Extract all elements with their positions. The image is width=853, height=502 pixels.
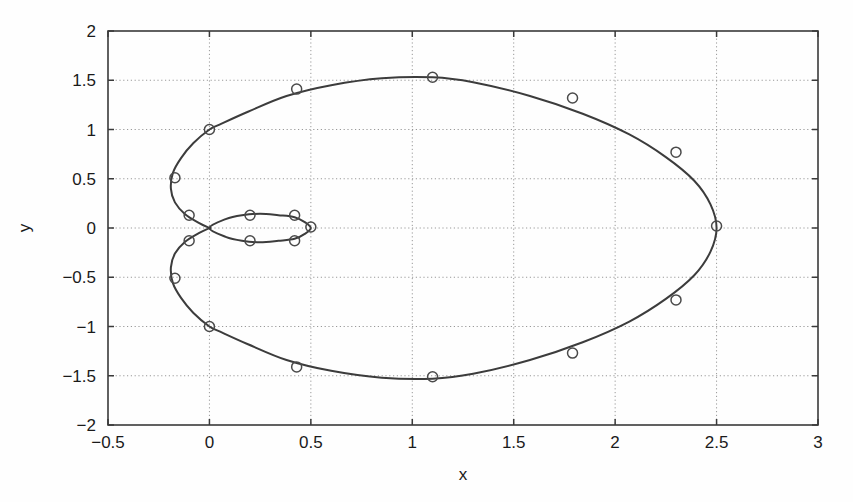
data-point-marker (428, 372, 438, 382)
y-axis-title: y (15, 223, 34, 232)
y-tick-label: 1 (87, 121, 96, 140)
x-tick-label: 2 (610, 433, 619, 452)
figure-container: −0.500.511.522.53 −2−1.5−1−0.500.511.52 … (0, 0, 853, 502)
y-tick-label: 2 (87, 22, 96, 41)
y-tick-label: 0 (87, 219, 96, 238)
x-tick-label: 1 (408, 433, 417, 452)
x-tick-label: 0 (205, 433, 214, 452)
data-point-marker (290, 236, 300, 246)
x-tick-label: −0.5 (91, 433, 125, 452)
y-tick-label: −0.5 (62, 268, 96, 287)
x-axis-title: x (459, 465, 468, 484)
x-tick-label: 2.5 (705, 433, 729, 452)
data-point-marker (568, 348, 578, 358)
y-tick-label: 0.5 (72, 170, 96, 189)
y-tick-label: 1.5 (72, 71, 96, 90)
x-tick-label: 0.5 (299, 433, 323, 452)
data-point-marker (671, 295, 681, 305)
plot-canvas: −0.500.511.522.53 −2−1.5−1−0.500.511.52 … (0, 0, 853, 502)
data-point-marker (290, 210, 300, 220)
y-tick-label: −1.5 (62, 367, 96, 386)
x-tick-label: 3 (813, 433, 822, 452)
y-tick-label: −1 (77, 318, 96, 337)
data-point-marker (671, 147, 681, 157)
y-tick-label: −2 (77, 416, 96, 435)
y-tick-labels: −2−1.5−1−0.500.511.52 (62, 22, 96, 435)
data-point-marker (568, 93, 578, 103)
x-tick-label: 1.5 (502, 433, 526, 452)
x-tick-labels: −0.500.511.522.53 (91, 433, 823, 452)
data-markers (170, 72, 722, 381)
